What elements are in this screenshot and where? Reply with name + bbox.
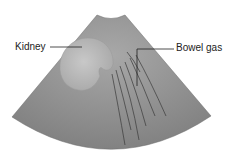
ultrasound-sector <box>12 15 211 149</box>
ultrasound-diagram <box>0 0 234 166</box>
bowel-gas-label: Bowel gas <box>176 43 222 53</box>
kidney-label: Kidney <box>15 42 46 52</box>
